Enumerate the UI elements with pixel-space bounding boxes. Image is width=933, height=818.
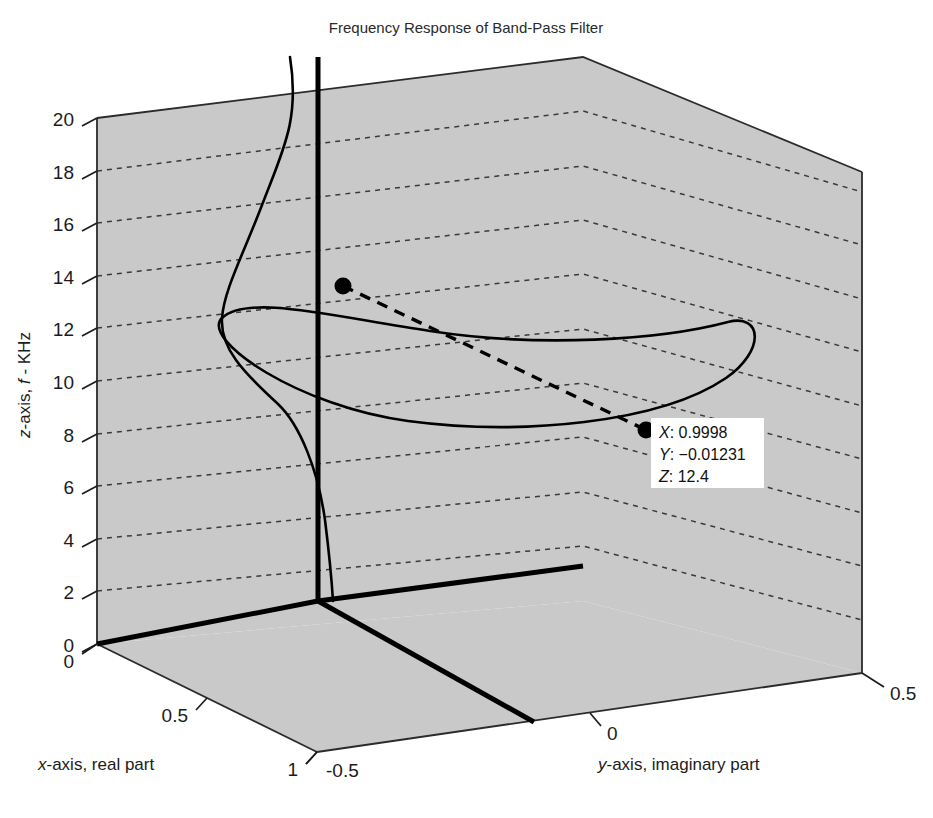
figure-window: Frequency Response of Band-Pass Filter [0,0,933,818]
z-tick-label: 14 [53,267,75,288]
z-tick-label: 2 [63,582,74,603]
data-tip-row-z: Z: 12.4 [658,468,709,485]
z-tick-label: 4 [63,530,74,551]
data-tip[interactable]: X: 0.9998 Y: −0.01231 Z: 12.4 [651,418,764,488]
z-axis-marker[interactable] [335,278,352,295]
z-axis-label: z-axis, f - KHz [15,332,34,439]
data-tip-row-x: X: 0.9998 [658,424,728,441]
x-tick-label: 0.5 [162,705,188,726]
x-tick-label: 0 [63,651,74,672]
z-tick-label: 8 [63,425,74,446]
z-tick-label: 16 [53,214,74,235]
x-tick-label: 1 [287,759,298,780]
z-axis-ticks [82,118,97,652]
z-axis-tick-labels: 0 2 4 6 8 10 12 14 16 18 20 [53,109,75,656]
z-tick-label: 20 [53,109,74,130]
wall-right [583,57,862,673]
y-tick-label: 0.5 [890,683,916,704]
y-axis-label: y-axis, imaginary part [597,755,760,774]
axes-walls [97,57,862,752]
wall-left [97,57,583,644]
chart-title: Frequency Response of Band-Pass Filter [329,19,603,36]
z-tick-label: 12 [53,319,74,340]
y-tick-label: -0.5 [326,760,359,781]
z-tick-label: 6 [63,477,74,498]
z-tick-label: 18 [53,162,74,183]
y-tick-label: 0 [607,723,618,744]
data-tip-row-y: Y: −0.01231 [659,446,746,463]
z-tick-label: 10 [53,372,74,393]
x-axis-label: x-axis, real part [37,755,154,774]
plot-canvas: Frequency Response of Band-Pass Filter [0,0,933,818]
